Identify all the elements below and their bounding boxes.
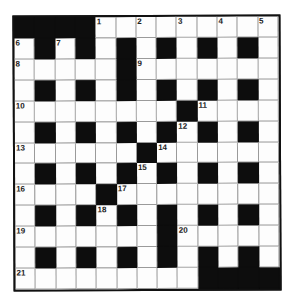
crossword-cell[interactable] <box>178 268 198 289</box>
crossword-cell[interactable] <box>116 17 136 38</box>
crossword-cell[interactable]: 16 <box>15 185 35 206</box>
crossword-cell[interactable] <box>157 59 177 80</box>
crossword-cell[interactable] <box>35 143 55 164</box>
crossword-cell[interactable] <box>137 247 157 268</box>
crossword-cell[interactable] <box>137 226 157 247</box>
crossword-cell[interactable] <box>56 268 76 289</box>
crossword-cell[interactable] <box>137 268 157 289</box>
crossword-cell[interactable] <box>258 100 278 121</box>
crossword-cell[interactable] <box>258 37 278 58</box>
crossword-cell[interactable] <box>56 143 76 164</box>
crossword-cell[interactable]: 15 <box>137 163 157 184</box>
crossword-cell[interactable]: 14 <box>157 142 177 163</box>
crossword-cell[interactable] <box>197 17 217 38</box>
crossword-cell[interactable] <box>56 206 76 227</box>
crossword-cell[interactable] <box>56 185 76 206</box>
crossword-cell[interactable] <box>76 268 96 289</box>
crossword-cell[interactable] <box>97 268 117 289</box>
crossword-cell[interactable]: 3 <box>177 17 197 38</box>
crossword-cell[interactable] <box>218 247 238 268</box>
crossword-cell[interactable] <box>15 248 35 269</box>
crossword-cell[interactable] <box>238 100 258 121</box>
crossword-cell[interactable] <box>177 38 197 59</box>
crossword-cell[interactable] <box>178 184 198 205</box>
crossword-cell[interactable]: 6 <box>14 38 34 59</box>
crossword-cell[interactable] <box>198 142 218 163</box>
crossword-cell[interactable] <box>157 101 177 122</box>
crossword-cell[interactable] <box>55 80 75 101</box>
crossword-cell[interactable] <box>56 227 76 248</box>
crossword-cell[interactable] <box>55 122 75 143</box>
crossword-cell[interactable] <box>76 59 96 80</box>
crossword-cell[interactable]: 7 <box>55 38 75 59</box>
crossword-cell[interactable] <box>177 142 197 163</box>
crossword-cell[interactable] <box>258 79 278 100</box>
crossword-cell[interactable] <box>157 17 177 38</box>
crossword-cell[interactable] <box>158 268 178 289</box>
crossword-cell[interactable] <box>56 247 76 268</box>
crossword-cell[interactable]: 12 <box>177 121 197 142</box>
crossword-cell[interactable] <box>218 38 238 59</box>
crossword-cell[interactable]: 18 <box>96 205 116 226</box>
crossword-cell[interactable] <box>96 164 116 185</box>
crossword-cell[interactable] <box>178 205 198 226</box>
crossword-cell[interactable] <box>15 122 35 143</box>
crossword-cell[interactable] <box>259 247 279 268</box>
crossword-cell[interactable] <box>239 184 259 205</box>
crossword-cell[interactable] <box>218 163 238 184</box>
crossword-cell[interactable] <box>15 80 35 101</box>
crossword-cell[interactable] <box>136 38 156 59</box>
crossword-cell[interactable] <box>258 58 278 79</box>
crossword-cell[interactable] <box>259 163 279 184</box>
crossword-cell[interactable] <box>35 59 55 80</box>
crossword-cell[interactable] <box>117 226 137 247</box>
crossword-cell[interactable] <box>218 184 238 205</box>
crossword-cell[interactable] <box>198 226 218 247</box>
crossword-cell[interactable] <box>56 164 76 185</box>
crossword-cell[interactable] <box>177 80 197 101</box>
crossword-cell[interactable] <box>259 121 279 142</box>
crossword-cell[interactable]: 13 <box>15 143 35 164</box>
crossword-cell[interactable] <box>137 80 157 101</box>
crossword-cell[interactable] <box>76 101 96 122</box>
crossword-cell[interactable] <box>97 247 117 268</box>
crossword-cell[interactable] <box>238 142 258 163</box>
crossword-cell[interactable] <box>218 121 238 142</box>
crossword-cell[interactable]: 9 <box>136 59 156 80</box>
crossword-cell[interactable] <box>55 59 75 80</box>
crossword-cell[interactable]: 17 <box>117 184 137 205</box>
crossword-cell[interactable] <box>96 101 116 122</box>
crossword-cell[interactable] <box>137 101 157 122</box>
crossword-cell[interactable] <box>259 142 279 163</box>
crossword-cell[interactable] <box>218 226 238 247</box>
crossword-cell[interactable] <box>116 101 136 122</box>
crossword-cell[interactable] <box>259 184 279 205</box>
crossword-cell[interactable] <box>116 143 136 164</box>
crossword-cell[interactable]: 2 <box>136 17 156 38</box>
crossword-cell[interactable] <box>177 59 197 80</box>
crossword-cell[interactable] <box>96 80 116 101</box>
crossword-cell[interactable] <box>96 122 116 143</box>
crossword-cell[interactable]: 21 <box>16 269 36 290</box>
crossword-cell[interactable] <box>97 226 117 247</box>
crossword-cell[interactable] <box>36 268 56 289</box>
crossword-cell[interactable]: 11 <box>198 100 218 121</box>
crossword-cell[interactable] <box>55 101 75 122</box>
crossword-cell[interactable] <box>178 247 198 268</box>
crossword-cell[interactable] <box>238 58 258 79</box>
crossword-cell[interactable] <box>137 122 157 143</box>
crossword-cell[interactable]: 20 <box>178 226 198 247</box>
crossword-cell[interactable] <box>35 101 55 122</box>
crossword-cell[interactable] <box>259 205 279 226</box>
crossword-cell[interactable] <box>76 185 96 206</box>
crossword-cell[interactable] <box>36 227 56 248</box>
crossword-cell[interactable]: 5 <box>258 16 278 37</box>
crossword-cell[interactable] <box>15 206 35 227</box>
crossword-cell[interactable]: 8 <box>15 59 35 80</box>
crossword-cell[interactable] <box>197 59 217 80</box>
crossword-cell[interactable] <box>218 58 238 79</box>
crossword-cell[interactable]: 1 <box>96 17 116 38</box>
crossword-cell[interactable] <box>117 268 137 289</box>
crossword-cell[interactable] <box>96 59 116 80</box>
crossword-cell[interactable]: 19 <box>15 227 35 248</box>
